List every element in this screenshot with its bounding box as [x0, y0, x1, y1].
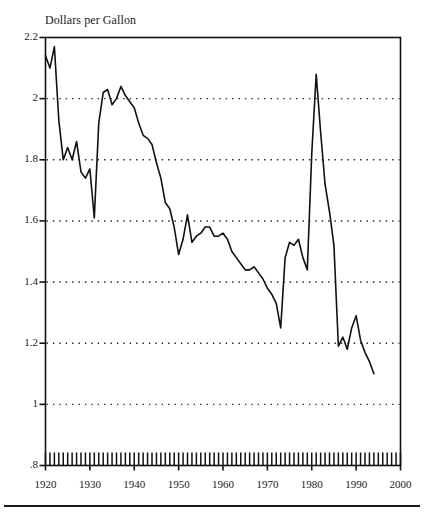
y-tick-label-2.2: 2.2 [4, 30, 38, 42]
x-tick-label-1940: 1940 [112, 478, 156, 490]
y-tick-label-1.4: 1.4 [4, 275, 38, 287]
axis-frame [46, 38, 401, 466]
y-tick-label-1.8: 1.8 [4, 152, 38, 164]
x-tick-label-1990: 1990 [334, 478, 378, 490]
x-tick-label-2000: 2000 [379, 478, 423, 490]
data-line-0 [46, 47, 374, 374]
y-tick-label-1.2: 1.2 [4, 336, 38, 348]
y-tick-label-2: 2 [4, 91, 38, 103]
chart-figure: Dollars per Gallon 2.221.81.61.41.21.8 1… [0, 0, 424, 516]
x-tick-label-1950: 1950 [157, 478, 201, 490]
x-tick-label-1920: 1920 [24, 478, 68, 490]
x-tick-label-1980: 1980 [290, 478, 334, 490]
y-tick-label-1.6: 1.6 [4, 213, 38, 225]
y-tick-label-.8: .8 [4, 458, 38, 470]
chart-plot-area [0, 0, 424, 516]
x-tick-label-1960: 1960 [201, 478, 245, 490]
y-tick-label-1: 1 [4, 397, 38, 409]
x-tick-label-1970: 1970 [245, 478, 289, 490]
x-tick-label-1930: 1930 [68, 478, 112, 490]
figure-bottom-rule [4, 505, 420, 507]
